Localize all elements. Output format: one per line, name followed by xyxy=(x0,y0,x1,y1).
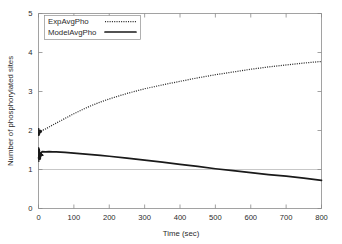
legend: ExpAvgPho ModelAvgPho xyxy=(45,16,141,40)
y-axis-title: Number of phosphorylated sites xyxy=(6,56,15,166)
y-tick-label-2: 2 xyxy=(28,126,32,135)
chart-figure: 012345 0100200300400500600700800 ExpAvgP… xyxy=(0,0,342,244)
y-tick-label-4: 4 xyxy=(28,48,32,57)
x-axis-title: Time (sec) xyxy=(163,229,200,238)
x-tick-label-800: 800 xyxy=(315,213,328,222)
legend-label-expavgpho: ExpAvgPho xyxy=(48,17,89,26)
y-tick-label-0: 0 xyxy=(28,204,32,213)
x-tick-label-500: 500 xyxy=(209,213,222,222)
x-tick-label-200: 200 xyxy=(103,213,116,222)
x-tick-label-700: 700 xyxy=(280,213,293,222)
legend-label-modelavgpho: ModelAvgPho xyxy=(48,28,97,37)
x-tick-label-0: 0 xyxy=(36,213,40,222)
x-axis-tick-labels: 0100200300400500600700800 xyxy=(36,213,327,222)
y-tick-label-3: 3 xyxy=(28,87,32,96)
x-tick-label-300: 300 xyxy=(138,213,151,222)
y-tick-label-5: 5 xyxy=(28,9,32,18)
x-tick-label-400: 400 xyxy=(174,213,187,222)
y-tick-label-1: 1 xyxy=(28,165,32,174)
x-tick-label-600: 600 xyxy=(244,213,257,222)
x-tick-label-100: 100 xyxy=(68,213,81,222)
line-chart: 012345 0100200300400500600700800 ExpAvgP… xyxy=(0,0,342,244)
